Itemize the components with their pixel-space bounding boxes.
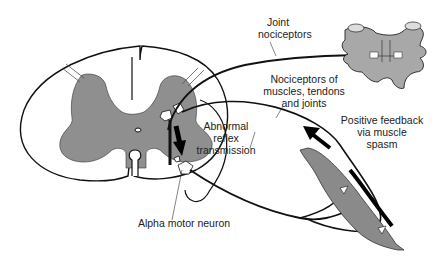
label-line: transmission bbox=[186, 144, 266, 156]
label-line: Nociceptors of bbox=[254, 73, 354, 85]
vertebra-facet bbox=[348, 24, 364, 32]
vertebra-foramen bbox=[394, 52, 402, 58]
joint-nociceptors-label: Joint nociceptors bbox=[258, 16, 298, 40]
label-line: reflex bbox=[186, 132, 266, 144]
alpha-motor-neuron-label: Alpha motor neuron bbox=[134, 217, 234, 229]
vertebra-foramen bbox=[370, 52, 378, 58]
label-line: Abnormal bbox=[186, 120, 266, 132]
label-line: nociceptors bbox=[258, 28, 298, 40]
muscle-nociceptors-label: Nociceptors of muscles, tendons and join… bbox=[254, 73, 354, 109]
label-line: and joints bbox=[254, 97, 354, 109]
joint-nociceptor-pointer bbox=[270, 42, 276, 56]
spinal-cord bbox=[21, 46, 228, 181]
feedback-arrow bbox=[312, 134, 330, 148]
label-line: muscles, tendons bbox=[254, 85, 354, 97]
central-canal bbox=[135, 128, 141, 132]
positive-feedback-label: Positive feedback via muscle spasm bbox=[332, 114, 432, 150]
abnormal-reflex-label: Abnormal reflex transmission bbox=[186, 120, 266, 156]
label-line: spasm bbox=[332, 138, 432, 150]
label-line: Joint bbox=[258, 16, 298, 28]
vertebra-facet bbox=[405, 22, 421, 30]
vertebra bbox=[342, 26, 426, 88]
label-line: via muscle bbox=[332, 126, 432, 138]
label-line: Positive feedback bbox=[332, 114, 432, 126]
